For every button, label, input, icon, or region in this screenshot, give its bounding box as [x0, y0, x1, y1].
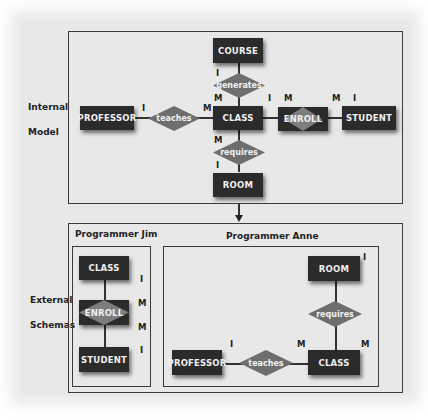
internal-label: Internal: [28, 102, 68, 112]
model-label: Model: [28, 127, 59, 137]
relationship-requires-label: requires: [220, 148, 258, 157]
jim-card-1: I: [140, 274, 143, 284]
anne-card-teaches-class: M: [297, 339, 305, 349]
programmer-jim-title: Programmer Jim: [75, 229, 157, 239]
anne-card-professor: I: [230, 339, 233, 349]
jim-entity-class: CLASS: [79, 256, 129, 280]
entity-course: COURSE: [213, 38, 263, 63]
card-room-requires: I: [216, 160, 219, 170]
anne-relationship-requires: requires: [308, 301, 362, 327]
jim-card-4: I: [140, 345, 143, 355]
card-student-enroll: I: [353, 93, 356, 103]
jim-entity-student: STUDENT: [79, 347, 129, 372]
card-enroll-left: M: [284, 93, 292, 103]
anne-relationship-teaches: teaches: [239, 350, 293, 376]
jim-card-3: M: [138, 322, 146, 332]
mapping-arrow-icon: [235, 215, 243, 222]
card-enroll-right: M: [332, 93, 340, 103]
enroll-label: ENROLL: [284, 114, 323, 124]
anne-card-room: I: [363, 252, 366, 262]
anne-entity-class: CLASS: [308, 350, 360, 375]
card-class-requires: M: [214, 135, 222, 145]
relationship-teaches-label: teaches: [156, 114, 191, 123]
associative-entity-enroll: ENROLL: [278, 107, 328, 131]
anne-requires-label: requires: [316, 310, 354, 319]
entity-room: ROOM: [213, 173, 263, 197]
relationship-generates-label: generates: [216, 81, 262, 90]
entity-class: CLASS: [213, 106, 263, 130]
anne-entity-professor: PROFESSOR: [172, 350, 222, 375]
anne-card-requires-class: M: [361, 339, 369, 349]
card-teaches-class: M: [203, 103, 211, 113]
entity-professor: PROFESSOR: [80, 106, 134, 130]
anne-teaches-label: teaches: [248, 359, 283, 368]
external-label: External: [30, 295, 72, 305]
card-professor-teaches: I: [142, 103, 145, 113]
jim-card-2: M: [138, 298, 146, 308]
jim-enroll-label: ENROLL: [85, 308, 124, 318]
jim-associative-enroll: ENROLL: [79, 300, 129, 325]
card-generates-class: M: [214, 93, 222, 103]
programmer-anne-title: Programmer Anne: [226, 231, 319, 241]
anne-entity-room: ROOM: [308, 256, 360, 281]
entity-student: STUDENT: [342, 106, 396, 130]
card-class-enroll: I: [268, 93, 271, 103]
relationship-teaches: teaches: [148, 106, 200, 131]
card-course-generates: I: [216, 68, 219, 78]
